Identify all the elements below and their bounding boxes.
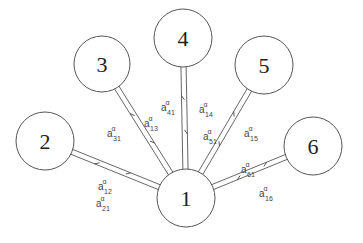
label-subscript: 51: [209, 138, 217, 145]
edge-line: [69, 154, 160, 191]
label-subscript: 21: [102, 205, 110, 212]
node-label: 2: [40, 129, 51, 154]
edge-line: [186, 65, 188, 171]
edge-label-a16: aα16: [259, 185, 273, 202]
label-superscript: α: [149, 115, 153, 122]
node-label: 6: [308, 134, 319, 159]
node-5: 5: [235, 36, 293, 94]
node-label: 4: [178, 26, 189, 51]
label-superscript: α: [246, 161, 250, 168]
edge-label-a14: aα14: [199, 101, 213, 118]
node-6: 6: [284, 117, 342, 175]
edge-label-a41: aα41: [161, 99, 175, 116]
label-superscript: α: [249, 125, 253, 132]
label-superscript: α: [204, 101, 208, 108]
label-subscript: 31: [113, 135, 121, 142]
edge-line: [114, 87, 170, 176]
label-subscript: 13: [150, 125, 158, 132]
edge-label-a51: aα51: [203, 128, 217, 145]
node-label: 5: [259, 53, 270, 78]
label-subscript: 61: [247, 171, 255, 178]
label-superscript: α: [166, 99, 170, 106]
edge-line: [181, 65, 183, 171]
edge-label-a31: aα31: [107, 125, 121, 142]
edge-line: [71, 149, 162, 186]
arrow-icon: [126, 173, 131, 174]
node-4: 4: [154, 9, 212, 67]
star-network-diagram: 123456 aα12aα21aα31aα13aα41aα14aα51aα15a…: [0, 0, 363, 243]
label-subscript: 15: [250, 135, 258, 142]
nodes-layer: 123456: [16, 9, 342, 227]
edge-1-2: [69, 149, 162, 191]
label-superscript: α: [103, 178, 107, 185]
label-subscript: 41: [167, 109, 175, 116]
edge-line: [118, 85, 174, 174]
label-subscript: 14: [205, 111, 213, 118]
label-superscript: α: [264, 185, 268, 192]
edge-label-a15: aα15: [244, 125, 258, 142]
edge-line: [210, 154, 287, 186]
edge-label-a21: aα21: [96, 195, 110, 212]
node-3: 3: [74, 36, 130, 92]
node-2: 2: [16, 112, 74, 170]
label-superscript: α: [101, 195, 105, 202]
edge-label-a12: aα12: [98, 178, 112, 195]
node-label: 1: [181, 186, 192, 211]
label-subscript: 12: [104, 188, 112, 195]
label-superscript: α: [208, 128, 212, 135]
node-label: 3: [97, 52, 108, 77]
arrow-icon: [95, 163, 100, 164]
node-1: 1: [157, 169, 215, 227]
label-subscript: 16: [265, 195, 273, 202]
label-superscript: α: [112, 125, 116, 132]
edge-1-4: [181, 65, 188, 171]
